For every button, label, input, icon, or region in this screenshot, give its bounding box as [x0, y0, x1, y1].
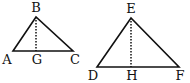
label-d: D: [88, 68, 98, 83]
triangle-abc-outline: [13, 17, 73, 51]
triangle-def-outline: [97, 18, 179, 67]
label-g: G: [32, 52, 42, 67]
label-h: H: [126, 68, 137, 83]
label-b: B: [31, 0, 41, 15]
label-e: E: [126, 1, 136, 16]
triangle-def: E D H F: [88, 1, 185, 83]
label-f: F: [175, 68, 184, 83]
similar-triangles-diagram: B A G C E D H F: [0, 0, 190, 83]
label-c: C: [70, 52, 80, 67]
triangle-abc: B A G C: [1, 0, 80, 67]
label-a: A: [1, 52, 12, 67]
